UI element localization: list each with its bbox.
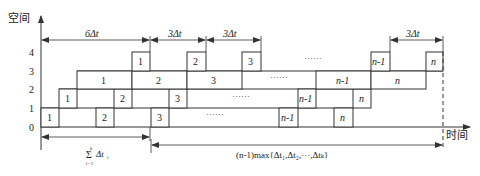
x-axis-label: 时间 xyxy=(446,129,468,142)
task-box-label: n-1 xyxy=(299,93,312,104)
task-box-label: 1 xyxy=(138,56,143,67)
task-box-label: 3 xyxy=(175,93,180,104)
y-tick-0: 0 xyxy=(29,122,34,133)
svg-text:i: i xyxy=(107,155,109,160)
dimension-3dt: 3Δt xyxy=(222,28,237,39)
y-tick-4: 4 xyxy=(29,47,34,58)
dimension-6dt: 6Δt xyxy=(85,28,99,39)
level-3-row: 1 2 3 ······ n-1 n xyxy=(132,52,443,71)
task-box-label: 2 xyxy=(102,112,107,123)
y-tick-1: 1 xyxy=(29,103,34,114)
sum-label: k Σ i=1 Δt i xyxy=(86,146,109,166)
bottom-dimensions: k Σ i=1 Δt i (n-1)max{Δt₁,Δt₂,···,Δtₖ} xyxy=(42,127,442,166)
svg-text:i=1: i=1 xyxy=(86,161,93,166)
task-box-label: 3 xyxy=(211,75,216,86)
task-box-label: 2 xyxy=(193,56,198,67)
svg-text:Δt: Δt xyxy=(95,149,104,159)
level-0-row: 1 2 3 ······ n-1 n xyxy=(41,108,353,127)
task-box-label: n xyxy=(395,75,400,86)
y-axis-label: 空间 xyxy=(8,11,30,25)
ellipsis: ······ xyxy=(270,72,288,82)
task-box-label: n-1 xyxy=(372,56,385,67)
task-box-label: n xyxy=(359,93,364,104)
task-box-label: 3 xyxy=(248,56,253,67)
y-tick-3: 3 xyxy=(29,66,34,77)
dimension-3dt: 3Δt xyxy=(405,28,420,39)
level-1-row: 1 2 3 ······ n-1 n xyxy=(59,89,371,108)
dimension-3dt: 3Δt xyxy=(167,28,182,39)
task-box-label: n-1 xyxy=(281,112,294,123)
ellipsis: ······ xyxy=(304,53,322,63)
task-box-label: 1 xyxy=(101,75,106,86)
task-box-label: n xyxy=(340,112,345,123)
task-box-label: 1 xyxy=(65,93,70,104)
top-dimensions: 6Δt 3Δt 3Δt 3Δt xyxy=(42,28,443,52)
task-box-label: 1 xyxy=(47,112,52,123)
space-time-diagram: 空间 时间 0 1 2 3 4 1 2 3 ······ n-1 n 1 2 3… xyxy=(0,0,480,176)
task-box-label: n-1 xyxy=(336,75,349,86)
ellipsis: ······ xyxy=(206,109,224,119)
level-2-row: 1 2 3 ······ n-1 n xyxy=(77,71,426,89)
task-box-label: 2 xyxy=(120,93,125,104)
task-box-label: 3 xyxy=(157,112,162,123)
svg-text:Σ: Σ xyxy=(86,149,92,160)
max-label: (n-1)max{Δt₁,Δt₂,···,Δtₖ} xyxy=(236,150,328,160)
task-box-label: n xyxy=(431,56,436,67)
task-box-label: 2 xyxy=(156,75,161,86)
ellipsis: ······ xyxy=(232,91,250,101)
y-tick-2: 2 xyxy=(29,84,34,95)
